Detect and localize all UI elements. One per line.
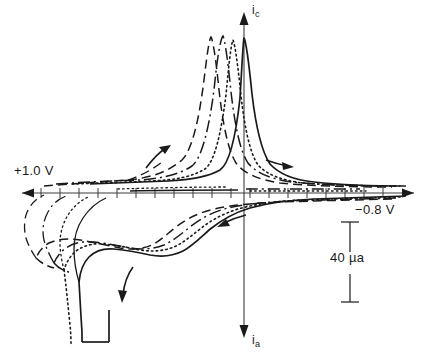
x-axis-left-arrowhead <box>22 189 34 198</box>
tail-dashdot-far-left <box>43 196 66 263</box>
scan-1-anodic-rise <box>36 258 54 268</box>
y-axis-bottom-arrowhead <box>240 325 249 338</box>
cyclic-voltammogram-figure: +1.0 V −0.8 V 40 µa ic ia <box>0 0 431 355</box>
scan-2-dashdot <box>54 36 396 273</box>
cathodic-axis-subscript: c <box>255 9 260 19</box>
y-axis-top-arrowhead <box>240 12 249 25</box>
overlay-tails <box>25 162 367 282</box>
cathodic-axis-label: ic <box>252 3 260 19</box>
anodic-axis-label: ia <box>252 333 260 349</box>
right-voltage-label: −0.8 V <box>355 202 395 217</box>
tail-solid-baseline-left <box>130 190 238 191</box>
scan-4-anodic-rise <box>79 282 82 342</box>
anodic-sweep-arrow-head <box>118 290 127 303</box>
voltammogram-plot <box>0 0 431 355</box>
anodic-axis-subscript: a <box>255 339 260 349</box>
scan-4-solid <box>79 38 406 342</box>
left-voltage-label: +1.0 V <box>14 163 54 178</box>
forward-sweep-arrow-right-head <box>282 162 294 170</box>
scale-bar-label: 40 µa <box>330 250 364 265</box>
scan-3-anodic-rise <box>64 270 71 344</box>
